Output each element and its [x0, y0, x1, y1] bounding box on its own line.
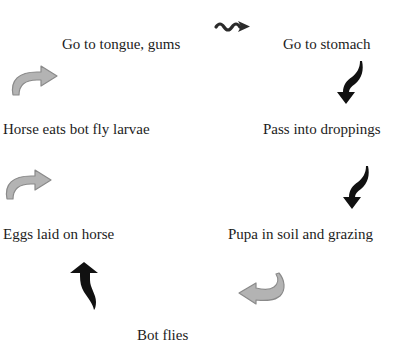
- curved-arrow-right-icon: [7, 62, 61, 98]
- stage-label-eggs: Eggs laid on horse: [3, 226, 114, 243]
- curved-arrow-up-icon: [66, 260, 102, 312]
- stage-label-pupa: Pupa in soil and grazing: [228, 226, 373, 243]
- stage-label-droppings: Pass into droppings: [263, 121, 381, 138]
- curved-arrow-down-icon: [341, 163, 375, 213]
- stage-label-tongue: Go to tongue, gums: [62, 36, 180, 53]
- stage-label-stomach: Go to stomach: [283, 36, 371, 53]
- stage-label-larvae: Horse eats bot fly larvae: [3, 121, 150, 138]
- stage-label-flies: Bot flies: [137, 327, 188, 344]
- curved-arrow-left-icon: [236, 270, 288, 306]
- curved-arrow-down-icon: [335, 58, 369, 108]
- curved-arrow-right-icon: [1, 166, 55, 202]
- wavy-arrow-icon: [213, 18, 253, 36]
